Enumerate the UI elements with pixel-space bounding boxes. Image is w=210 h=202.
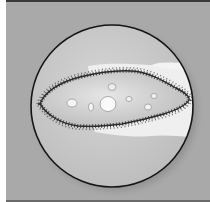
illustration-frame: [6, 0, 210, 202]
vacuole-right-top: [151, 94, 157, 99]
top-border: [6, 0, 210, 2]
vacuole-right-low: [145, 104, 152, 110]
vacuole-small-oval: [89, 103, 94, 111]
vacuole-top: [108, 84, 116, 91]
paramecium-illustration: [6, 0, 210, 202]
bottom-border: [6, 200, 210, 202]
vacuole-left: [67, 99, 77, 107]
vacuole-large: [100, 97, 116, 112]
vacuole-mid-right: [126, 97, 132, 102]
